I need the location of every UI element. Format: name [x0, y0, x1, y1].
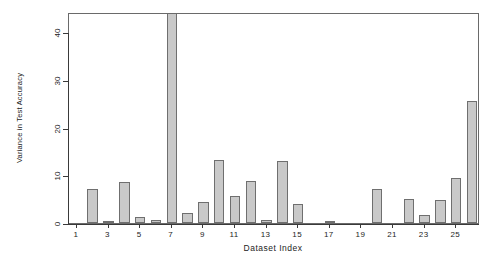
- bar: [451, 178, 461, 223]
- y-axis-line: [68, 33, 69, 225]
- x-axis-tick: [455, 224, 456, 228]
- x-axis-tick-label: 1: [73, 230, 78, 239]
- bar: [261, 220, 271, 223]
- x-axis-tick-label: 9: [200, 230, 205, 239]
- bar: [182, 213, 192, 224]
- bar: [404, 199, 414, 223]
- y-axis-tick-label: 30: [53, 74, 62, 88]
- x-axis-tick-label: 23: [419, 230, 429, 239]
- x-axis-tick-label: 13: [261, 230, 271, 239]
- bar: [198, 202, 208, 223]
- x-axis-tick: [76, 224, 77, 228]
- bar: [435, 200, 445, 223]
- x-axis-tick-label: 25: [450, 230, 460, 239]
- x-axis-tick: [329, 224, 330, 228]
- y-axis-tick-label: 0: [53, 217, 62, 231]
- bar: [467, 101, 477, 223]
- x-axis-tick: [424, 224, 425, 228]
- x-axis-tick-label: 19: [356, 230, 366, 239]
- bar: [246, 181, 256, 223]
- x-axis-tick: [202, 224, 203, 228]
- bar: [103, 221, 113, 223]
- bar: [419, 215, 429, 223]
- x-axis-tick: [392, 224, 393, 228]
- x-axis-tick-label: 21: [387, 230, 397, 239]
- y-axis-tick: [63, 81, 68, 82]
- bar: [325, 221, 335, 223]
- bar: [293, 204, 303, 223]
- y-axis-tick-label: 10: [53, 169, 62, 183]
- x-axis-line: [68, 224, 479, 225]
- bar: [214, 160, 224, 223]
- x-axis-tick: [360, 224, 361, 228]
- bar: [151, 220, 161, 223]
- bar: [119, 182, 129, 223]
- x-axis-tick-label: 5: [137, 230, 142, 239]
- x-axis-tick: [266, 224, 267, 228]
- y-axis-tick: [63, 224, 68, 225]
- x-axis-tick: [108, 224, 109, 228]
- x-axis-tick-label: 17: [324, 230, 334, 239]
- bar: [277, 161, 287, 223]
- y-axis-tick: [63, 176, 68, 177]
- bar: [230, 196, 240, 223]
- x-axis-tick-label: 3: [105, 230, 110, 239]
- y-axis-tick: [63, 129, 68, 130]
- bars-layer: [69, 14, 478, 223]
- y-axis-tick-label: 20: [53, 122, 62, 136]
- x-axis-tick-label: 15: [292, 230, 302, 239]
- x-axis-tick: [234, 224, 235, 228]
- bar: [135, 217, 145, 223]
- x-axis-tick: [171, 224, 172, 228]
- bar: [167, 13, 177, 223]
- y-axis-title: Variance in Test Accuracy: [15, 73, 24, 163]
- x-axis-tick: [139, 224, 140, 228]
- bar: [87, 189, 97, 223]
- x-axis-tick: [297, 224, 298, 228]
- bar: [372, 189, 382, 223]
- x-axis-title: Dataset Index: [244, 243, 303, 253]
- x-axis-tick-label: 7: [168, 230, 173, 239]
- plot-area: [68, 13, 479, 224]
- x-axis-tick-label: 11: [229, 230, 238, 239]
- bar-chart-figure: 010203040 135791113151719212325 Variance…: [0, 0, 496, 264]
- y-axis-tick-label: 40: [53, 26, 62, 40]
- y-axis-tick: [63, 33, 68, 34]
